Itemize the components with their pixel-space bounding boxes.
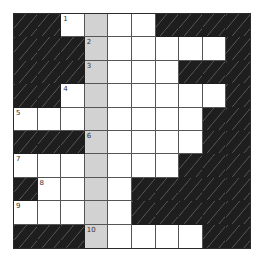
- highlighted-answer-cell[interactable]: 2: [85, 37, 109, 60]
- answer-cell[interactable]: [179, 131, 203, 154]
- highlighted-answer-cell[interactable]: 10: [85, 225, 109, 248]
- answer-cell[interactable]: [132, 61, 156, 84]
- black-square: [226, 108, 250, 131]
- black-square: [226, 178, 250, 201]
- answer-cell[interactable]: [61, 154, 85, 177]
- clue-number: 4: [63, 85, 67, 93]
- clue-number: 2: [87, 38, 91, 46]
- clue-number: 7: [16, 155, 20, 163]
- highlighted-answer-cell[interactable]: 6: [85, 131, 109, 154]
- black-square: [179, 14, 203, 37]
- black-square: [14, 178, 38, 201]
- black-square: [226, 84, 250, 107]
- answer-cell[interactable]: [61, 201, 85, 224]
- answer-cell[interactable]: 4: [61, 84, 85, 107]
- answer-cell[interactable]: 5: [14, 108, 38, 131]
- black-square: [179, 178, 203, 201]
- black-square: [226, 154, 250, 177]
- clue-number: 6: [87, 132, 91, 140]
- answer-cell[interactable]: [156, 225, 180, 248]
- answer-cell[interactable]: [108, 14, 132, 37]
- answer-cell[interactable]: [108, 154, 132, 177]
- answer-cell[interactable]: [108, 225, 132, 248]
- black-square: [61, 37, 85, 60]
- answer-cell[interactable]: [156, 84, 180, 107]
- answer-cell[interactable]: [156, 37, 180, 60]
- black-square: [203, 154, 227, 177]
- answer-cell[interactable]: [38, 108, 62, 131]
- answer-cell[interactable]: [179, 37, 203, 60]
- black-square: [38, 61, 62, 84]
- answer-cell[interactable]: [108, 61, 132, 84]
- crossword-grid: 12345678910: [13, 13, 251, 249]
- answer-cell[interactable]: [61, 108, 85, 131]
- black-square: [156, 14, 180, 37]
- highlighted-answer-cell[interactable]: [85, 154, 109, 177]
- answer-cell[interactable]: [156, 131, 180, 154]
- answer-cell[interactable]: [179, 225, 203, 248]
- black-square: [203, 131, 227, 154]
- black-square: [38, 225, 62, 248]
- black-square: [179, 154, 203, 177]
- answer-cell[interactable]: [108, 37, 132, 60]
- answer-cell[interactable]: [108, 84, 132, 107]
- black-square: [226, 37, 250, 60]
- black-square: [179, 61, 203, 84]
- answer-cell[interactable]: [132, 225, 156, 248]
- black-square: [132, 178, 156, 201]
- highlighted-answer-cell[interactable]: [85, 84, 109, 107]
- clue-number: 5: [16, 109, 20, 117]
- clue-number: 9: [16, 202, 20, 210]
- highlighted-answer-cell[interactable]: [85, 108, 109, 131]
- answer-cell[interactable]: 1: [61, 14, 85, 37]
- black-square: [14, 131, 38, 154]
- clue-number: 8: [40, 179, 44, 187]
- answer-cell[interactable]: [156, 154, 180, 177]
- black-square: [203, 61, 227, 84]
- answer-cell[interactable]: [61, 178, 85, 201]
- black-square: [179, 201, 203, 224]
- highlighted-answer-cell[interactable]: [85, 178, 109, 201]
- black-square: [38, 84, 62, 107]
- answer-cell[interactable]: [132, 108, 156, 131]
- black-square: [226, 14, 250, 37]
- answer-cell[interactable]: [156, 61, 180, 84]
- answer-cell[interactable]: [108, 108, 132, 131]
- answer-cell[interactable]: [132, 37, 156, 60]
- highlighted-answer-cell[interactable]: [85, 14, 109, 37]
- answer-cell[interactable]: [203, 37, 227, 60]
- answer-cell[interactable]: [156, 108, 180, 131]
- clue-number: 1: [63, 15, 67, 23]
- black-square: [203, 178, 227, 201]
- answer-cell[interactable]: [132, 154, 156, 177]
- answer-cell[interactable]: [132, 14, 156, 37]
- black-square: [132, 201, 156, 224]
- answer-cell[interactable]: [179, 84, 203, 107]
- answer-cell[interactable]: [38, 201, 62, 224]
- black-square: [14, 84, 38, 107]
- highlighted-answer-cell[interactable]: [85, 201, 109, 224]
- black-square: [226, 61, 250, 84]
- answer-cell[interactable]: [179, 108, 203, 131]
- black-square: [156, 201, 180, 224]
- answer-cell[interactable]: 9: [14, 201, 38, 224]
- answer-cell[interactable]: [132, 84, 156, 107]
- black-square: [226, 225, 250, 248]
- black-square: [61, 225, 85, 248]
- clue-number: 3: [87, 62, 91, 70]
- black-square: [61, 61, 85, 84]
- answer-cell[interactable]: 8: [38, 178, 62, 201]
- black-square: [226, 131, 250, 154]
- answer-cell[interactable]: [132, 131, 156, 154]
- highlighted-answer-cell[interactable]: 3: [85, 61, 109, 84]
- answer-cell[interactable]: [38, 154, 62, 177]
- answer-cell[interactable]: [108, 201, 132, 224]
- answer-cell[interactable]: 7: [14, 154, 38, 177]
- answer-cell[interactable]: [108, 178, 132, 201]
- black-square: [38, 131, 62, 154]
- black-square: [156, 178, 180, 201]
- answer-cell[interactable]: [108, 131, 132, 154]
- black-square: [203, 201, 227, 224]
- answer-cell[interactable]: [203, 84, 227, 107]
- black-square: [203, 225, 227, 248]
